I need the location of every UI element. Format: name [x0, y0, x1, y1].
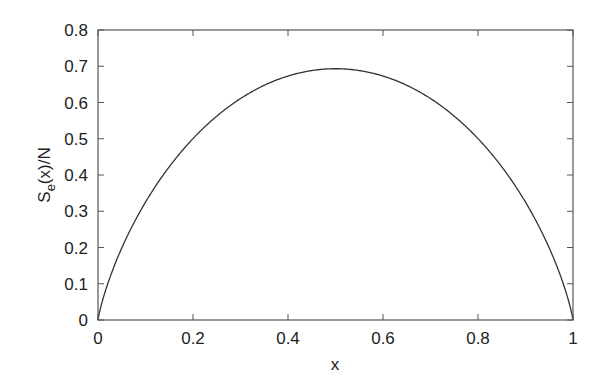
- y-tick-label: 0.1: [64, 275, 88, 294]
- y-tick-label: 0.3: [64, 202, 88, 221]
- x-tick-label: 0.4: [276, 329, 300, 348]
- x-tick-label: 0.8: [466, 329, 490, 348]
- y-tick-label: 0.2: [64, 239, 88, 258]
- y-axis-ticks: 00.10.20.30.40.50.60.70.8: [64, 21, 573, 330]
- y-axis-label: Se(x)/N: [35, 147, 58, 202]
- y-tick-label: 0.6: [64, 94, 88, 113]
- x-tick-label: 1: [568, 329, 577, 348]
- x-axis-label: x: [331, 355, 340, 374]
- y-tick-label: 0.8: [64, 21, 88, 40]
- y-tick-label: 0.7: [64, 57, 88, 76]
- plot-frame: [98, 30, 573, 320]
- chart: 00.10.20.30.40.50.60.70.8 00.20.40.60.81…: [0, 0, 599, 384]
- y-tick-label: 0: [79, 311, 88, 330]
- x-tick-label: 0.2: [181, 329, 205, 348]
- entropy-curve: [98, 69, 573, 320]
- y-tick-label: 0.5: [64, 130, 88, 149]
- y-tick-label: 0.4: [64, 166, 88, 185]
- x-axis-ticks: 00.20.40.60.81: [93, 30, 577, 348]
- x-tick-label: 0: [93, 329, 102, 348]
- x-tick-label: 0.6: [371, 329, 395, 348]
